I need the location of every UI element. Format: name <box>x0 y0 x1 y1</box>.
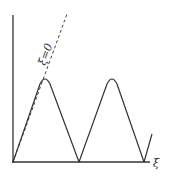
x-axis-label: ξ <box>153 157 160 170</box>
plot-canvas: ξ=0 ξ <box>0 0 172 178</box>
dashed-line-label: ξ=0 <box>36 42 56 67</box>
oscillating-curve <box>13 79 152 162</box>
